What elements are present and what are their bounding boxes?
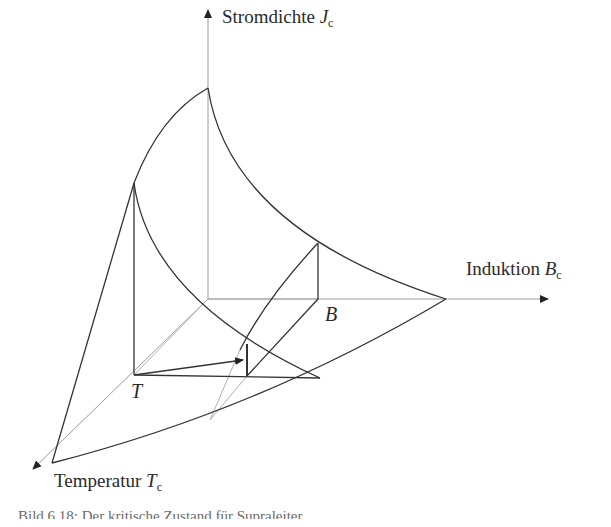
t-symbol: T (146, 470, 157, 491)
b-base-diagonal (247, 299, 318, 376)
point-t-label: T (131, 380, 142, 403)
curve-jb (208, 88, 446, 299)
axes (33, 10, 548, 469)
curve-b-slice (240, 243, 318, 350)
j-subscript: c (328, 16, 333, 30)
j-axis-text: Stromdichte (222, 6, 320, 27)
t-axis-label: Temperatur Tc (54, 470, 162, 495)
j-symbol: J (320, 6, 328, 27)
figure-caption: Bild 6.18: Der kritische Zustand für Sup… (18, 508, 303, 519)
curve-jb-at-t (134, 183, 320, 378)
critical-surface (52, 88, 446, 463)
j-axis-label: Stromdichte Jc (222, 6, 333, 31)
curve-jt-top (134, 88, 208, 183)
b-axis-text: Induktion (466, 258, 545, 279)
point-b-label: B (325, 303, 337, 326)
line-jt-left (52, 183, 134, 463)
b-symbol: B (545, 258, 557, 279)
operating-arrow (134, 360, 243, 375)
b-axis-label: Induktion Bc (466, 258, 562, 283)
t-subscript: c (157, 480, 162, 494)
b-subscript: c (556, 268, 561, 282)
t-axis-text: Temperatur (54, 470, 146, 491)
curve-tb (52, 299, 446, 463)
construction-lines (134, 299, 318, 420)
horizontal-at-t (134, 375, 320, 378)
